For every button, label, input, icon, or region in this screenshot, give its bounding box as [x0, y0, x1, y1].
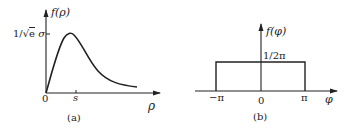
panel-b-caption: (b): [253, 111, 267, 122]
panel-b-origin-label: 0: [258, 95, 264, 106]
panel-a-y-tick-label: 1/√e σ: [13, 28, 46, 39]
panel-a-y-axis-label: f(ρ): [50, 6, 70, 19]
panel-b-x-tick-label-neg-pi: −π: [209, 92, 224, 103]
panel-a-caption: (a): [67, 112, 81, 123]
panel-b-y-axis-label: f(φ): [265, 25, 286, 38]
panel-a-density-curve: [46, 33, 137, 93]
panel-b: f(φ) 1/2π −π 0 π φ (b): [195, 24, 337, 122]
panel-a-x-tick-label: s: [73, 92, 78, 103]
panel-a: f(ρ) 1/√e σ 0 s ρ (a): [13, 6, 160, 123]
panel-a-origin-label: 0: [42, 93, 48, 104]
panel-b-x-tick-label-pi: π: [301, 92, 308, 103]
panel-b-level-label: 1/2π: [263, 50, 286, 61]
panel-a-x-axis-label: ρ: [147, 99, 155, 113]
panel-b-x-axis-label: φ: [325, 93, 333, 106]
figure: f(ρ) 1/√e σ 0 s ρ (a) f(φ) 1/2π −π 0 π φ…: [0, 0, 346, 135]
